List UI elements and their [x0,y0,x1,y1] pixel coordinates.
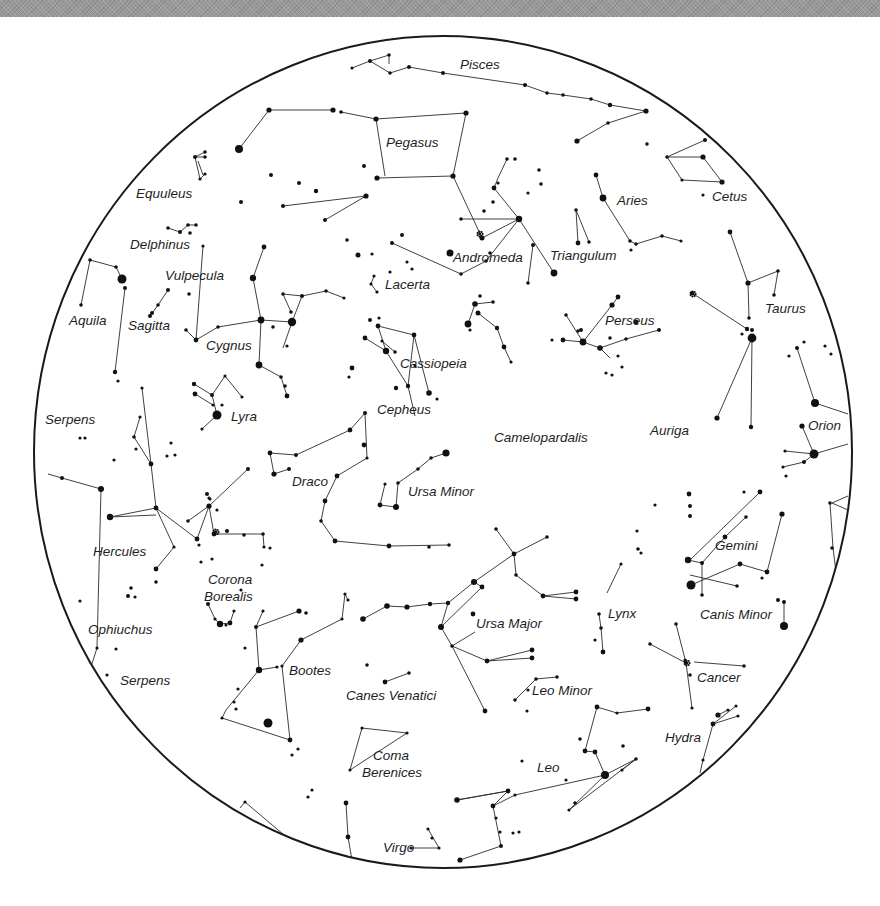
star-icon [492,186,497,191]
constellation-line [283,294,302,296]
star-icon [173,453,176,456]
star-icon [779,511,784,516]
star-icon [207,496,210,499]
constellation-line [650,644,686,663]
star-icon [266,107,271,112]
constellation-line [335,541,389,546]
star-icon [494,527,498,531]
label-serpens-caput: Serpens [45,412,96,427]
star-icon [256,362,263,369]
constellation-line [751,338,752,427]
star-icon [574,590,579,595]
star-icon [393,350,397,354]
constellation-line [667,157,682,180]
star-icon [516,216,522,222]
star-icon [412,333,417,338]
star-icon [690,706,693,709]
star-icon [628,239,632,243]
star-icon [648,642,652,646]
star-icon [388,71,392,75]
star-icon [194,223,198,227]
label-coma-berenices-1: Coma [373,748,410,763]
star-icon [426,827,429,830]
star-icon [545,535,549,539]
star-icon [383,348,389,354]
star-icon [297,181,301,185]
star-icon [126,594,130,598]
star-icon [758,490,763,495]
constellation-line [134,417,140,437]
star-icon [324,289,328,293]
star-icon [606,121,610,125]
constellation-line [218,320,261,327]
constellation-line [296,430,350,455]
star-icon [250,275,256,281]
constellation-line [337,458,367,476]
star-icon [406,384,410,388]
star-icon [688,673,692,677]
star-icon [217,621,223,627]
star-icon [288,318,296,326]
constellation-line [283,294,291,312]
star-icon [688,514,692,518]
star-icon [429,456,433,460]
star-icon [601,650,606,655]
star-icon [679,239,682,242]
constellation-line [690,575,737,586]
star-icon [416,467,420,471]
star-icon [330,107,335,112]
star-icon [726,708,729,711]
star-icon [760,576,763,579]
constellation-line [352,61,370,68]
star-icon [700,561,704,565]
constellation-line [496,529,514,554]
star-icon [520,759,523,762]
star-icon [165,454,168,457]
star-icon [653,503,656,506]
label-bootes: Bootes [289,663,331,678]
star-icon [350,366,355,371]
star-icon [236,687,239,690]
star-icon [700,593,704,597]
star-icon [828,501,832,505]
star-icon [615,711,618,714]
star-icon [140,386,143,389]
star-icon [206,503,211,508]
star-icon [369,282,372,285]
star-icon [343,592,346,595]
star-icon [512,552,517,557]
constellation-line [270,453,296,455]
star-icon [114,265,118,269]
constellation-line [832,503,848,510]
star-icon [829,352,832,355]
star-icon [154,580,158,584]
constellation-line [453,176,482,238]
label-cetus: Cetus [712,189,748,204]
constellation-lines [48,55,848,860]
star-icon [437,846,440,849]
constellation-line [409,67,443,73]
star-icon [523,83,527,87]
star-icon [380,339,383,342]
star-icon [513,157,517,161]
constellation-line [390,67,409,73]
star-icon [203,172,206,175]
constellation-line [208,604,215,619]
star-icon [269,173,273,177]
constellation-line [748,283,749,318]
star-icon [674,622,678,626]
label-lyra: Lyra [231,409,258,424]
star-icon [561,93,565,97]
label-pegasus: Pegasus [386,135,439,150]
star-icon [783,449,786,452]
star-icon [499,844,503,848]
star-icon [539,182,543,186]
star-icon [450,644,454,648]
star-icon [362,164,366,168]
star-icon [496,181,499,184]
star-icon [795,346,799,350]
constellation-line [259,365,281,377]
constellation-line [376,113,466,119]
label-cepheus: Cepheus [377,402,431,417]
label-coma-berenices-2: Berenices [362,765,422,780]
